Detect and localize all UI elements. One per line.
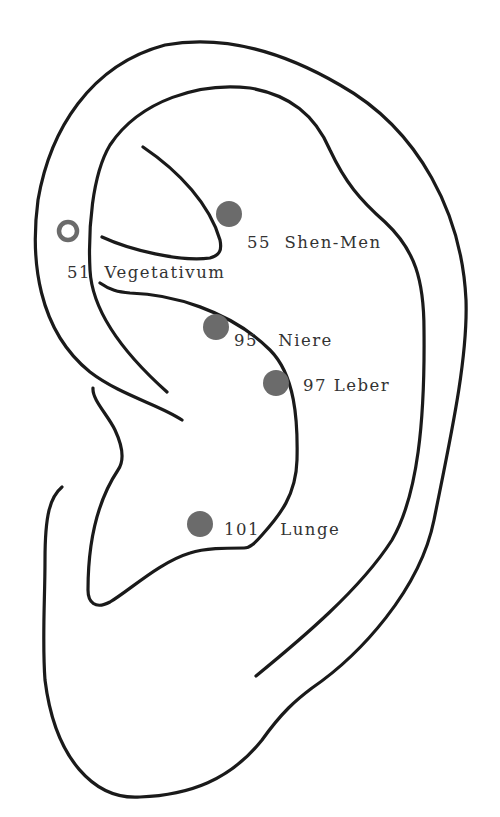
triangular-fossa-line <box>102 147 221 259</box>
label-97-leber: 97 Leber <box>303 376 390 395</box>
label-101-lunge: 101 Lunge <box>224 520 340 539</box>
outer-helix-outline <box>35 42 466 797</box>
point-101-marker-icon[interactable] <box>187 511 213 537</box>
point-51-open-icon[interactable] <box>59 222 77 240</box>
label-51-vegetativum: 51 Vegetativum <box>67 263 225 282</box>
label-55-shen-men: 55 Shen-Men <box>247 233 382 252</box>
point-95-marker-icon[interactable] <box>203 314 229 340</box>
point-55-marker-icon[interactable] <box>216 201 242 227</box>
label-95-niere: 95 Niere <box>234 331 333 350</box>
ear-diagram: 51 Vegetativum 55 Shen-Men 95 Niere 97 L… <box>0 0 500 817</box>
point-97-marker-icon[interactable] <box>263 370 289 396</box>
